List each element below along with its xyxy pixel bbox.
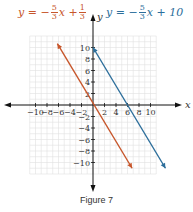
svg-text:8: 8 bbox=[85, 55, 90, 64]
graph: −10−8−6−4−2246810−10−8−6−4−2246810xy bbox=[0, 0, 193, 212]
svg-text:−6: −6 bbox=[78, 136, 90, 145]
svg-text:−2: −2 bbox=[78, 113, 90, 122]
svg-text:6: 6 bbox=[85, 67, 90, 76]
svg-text:−4: −4 bbox=[78, 124, 90, 133]
svg-text:8: 8 bbox=[136, 108, 141, 117]
svg-text:−10: −10 bbox=[73, 159, 90, 168]
svg-text:10: 10 bbox=[145, 108, 155, 117]
fraction: 53 bbox=[139, 4, 146, 21]
fraction: 13 bbox=[79, 4, 86, 21]
svg-text:2: 2 bbox=[102, 108, 107, 117]
svg-text:−8: −8 bbox=[78, 147, 90, 156]
svg-text:−8: −8 bbox=[41, 108, 53, 117]
svg-text:−6: −6 bbox=[53, 108, 65, 117]
equation-left: y = − 53 x + 13 bbox=[18, 4, 87, 21]
plotted-lines bbox=[57, 44, 165, 169]
svg-text:−4: −4 bbox=[64, 108, 76, 117]
svg-text:6: 6 bbox=[125, 108, 130, 117]
figure-caption: Figure 7 bbox=[0, 195, 193, 205]
svg-text:x: x bbox=[185, 99, 191, 110]
tick-labels: −10−8−6−4−2246810−10−8−6−4−2246810xy bbox=[27, 11, 191, 168]
equation-right: y = − 53 x + 10 bbox=[106, 4, 183, 21]
svg-text:y: y bbox=[96, 11, 103, 22]
fraction: 53 bbox=[51, 4, 58, 21]
svg-text:4: 4 bbox=[85, 78, 90, 87]
svg-text:4: 4 bbox=[113, 108, 118, 117]
svg-text:10: 10 bbox=[80, 44, 90, 53]
